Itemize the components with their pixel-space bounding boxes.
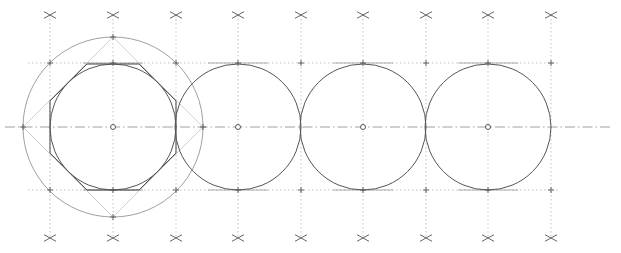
- technical-drawing: [0, 0, 621, 253]
- cross-marks: [20, 12, 557, 242]
- center-point-icon: [486, 125, 491, 130]
- cross-mark-icon: [295, 12, 307, 19]
- cross-mark-icon: [170, 12, 182, 19]
- center-point-icon: [236, 125, 241, 130]
- tangent-lines: [28, 63, 560, 190]
- cross-mark-icon: [545, 12, 557, 19]
- cross-mark-icon: [420, 12, 432, 19]
- cross-mark-icon: [357, 12, 369, 19]
- tangent-circles: [50, 64, 551, 190]
- center-point-icon: [111, 125, 116, 130]
- cross-mark-icon: [107, 12, 119, 19]
- cross-mark-icon: [482, 12, 494, 19]
- drawing-canvas: [0, 0, 621, 253]
- center-point-icon: [361, 125, 366, 130]
- cross-mark-icon: [232, 12, 244, 19]
- cross-mark-icon: [44, 12, 56, 19]
